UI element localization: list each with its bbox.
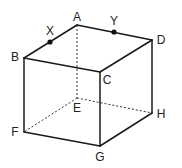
vertex-label-g: G [95, 150, 104, 164]
edge-BC [24, 58, 100, 72]
vertex-label-h: H [157, 107, 166, 121]
edge-GH [100, 113, 152, 146]
vertex-label-c: C [103, 73, 112, 87]
vertex-label-e: E [73, 101, 81, 115]
vertex-label-a: A [73, 10, 81, 24]
marked-points: XY [46, 14, 118, 45]
cube-diagram: XY ABCDEFGH [0, 0, 182, 168]
hidden-edge-EH [77, 98, 152, 113]
hidden-edge-EF [24, 98, 77, 132]
solid-edges [24, 25, 152, 146]
vertex-label-b: B [11, 50, 19, 64]
vertex-label-d: D [157, 33, 166, 47]
vertex-label-f: F [11, 125, 18, 139]
vertex-labels: ABCDEFGH [11, 10, 166, 164]
edge-CD [100, 40, 152, 72]
point-y-dot [111, 29, 116, 34]
point-y-label: Y [110, 14, 118, 28]
point-x-label: X [46, 24, 54, 38]
hidden-edges [24, 25, 152, 132]
edge-FG [24, 132, 100, 146]
point-x-dot [47, 39, 52, 44]
